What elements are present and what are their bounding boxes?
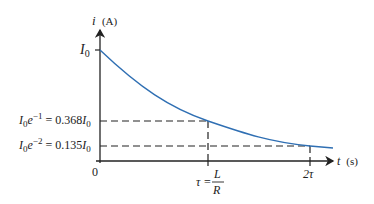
rl-decay-diagram: i (A) t (s) 0 I0 I0e−1 = 0.368I0 I0e−2 =…: [0, 0, 374, 204]
tau-denominator: R: [212, 183, 221, 197]
decay-curve: [100, 50, 333, 148]
y-axis-label: i (A): [92, 13, 117, 28]
x-axis-label: t (s): [337, 154, 358, 168]
two-tau-label: 2τ: [303, 167, 314, 181]
i0-label: I0: [79, 42, 90, 59]
origin-label: 0: [92, 165, 98, 179]
e2-label: I0e−2 = 0.135I0: [18, 136, 91, 154]
tau-numerator: L: [213, 167, 221, 181]
tau-label: τ =: [196, 175, 211, 189]
e1-label: I0e−1 = 0.368I0: [18, 111, 91, 129]
